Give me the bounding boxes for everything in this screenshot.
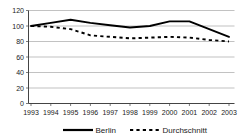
x-axis-tick-label: 2003: [221, 109, 237, 116]
y-axis-tick-label: 80: [16, 38, 24, 45]
x-axis-tick-label: 1994: [43, 109, 59, 116]
legend-label-berlin: Berlin: [96, 126, 116, 135]
y-axis-tick-label: 60: [16, 54, 24, 61]
x-axis-tick-label: 1996: [83, 109, 99, 116]
y-axis-tick-label: 40: [16, 69, 24, 76]
y-axis-tick-label: 0: [20, 100, 24, 107]
y-axis-tick-label: 100: [12, 23, 24, 30]
x-axis-tick-label: 2001: [182, 109, 198, 116]
x-axis-tick-label: 1998: [122, 109, 138, 116]
chart-canvas: 020406080100120 199319941995199619971998…: [0, 0, 241, 140]
x-axis-tick-label: 1995: [63, 109, 79, 116]
line-chart: 020406080100120 199319941995199619971998…: [0, 0, 241, 140]
x-axis-tick-label: 1999: [142, 109, 158, 116]
chart-background: [0, 0, 241, 140]
x-axis-tick-label: 1993: [23, 109, 39, 116]
x-axis-tick-label: 1997: [102, 109, 118, 116]
x-axis-tick-label: 2000: [162, 109, 178, 116]
x-axis-tick-label: 2002: [201, 109, 217, 116]
y-axis-tick-label: 120: [12, 7, 24, 14]
legend-label-durchschnitt: Durchschnitt: [163, 126, 208, 135]
y-axis-tick-label: 20: [16, 85, 24, 92]
x-axis-tick-labels: 1993199419951996199719981999200020012002…: [23, 109, 237, 116]
